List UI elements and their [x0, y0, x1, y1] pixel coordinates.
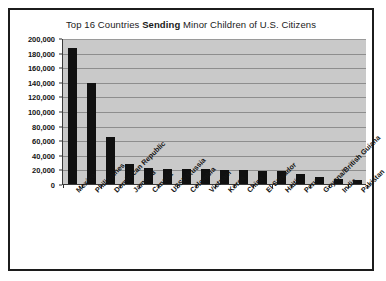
chart-title-emphasis: Sending	[142, 19, 180, 30]
chart-title-after: Minor Children of U.S. Citizens	[180, 19, 316, 30]
x-axis: MexicoPhilippinesDominican RepublicJamai…	[62, 188, 372, 270]
y-tick-label: 120,000	[28, 93, 55, 102]
y-tick-label: 140,000	[28, 78, 55, 87]
y-tick-label: 200,000	[28, 35, 55, 44]
bars-layer	[63, 39, 366, 184]
chart-title-before: Top 16 Countries	[66, 19, 142, 30]
y-tick-label: 100,000	[28, 108, 55, 117]
y-tick-label: 40,000	[32, 151, 55, 160]
y-tick-label: 60,000	[32, 137, 55, 146]
chart-title: Top 16 Countries Sending Minor Children …	[10, 19, 372, 30]
bar[interactable]	[68, 48, 77, 184]
y-axis: 020,00040,00060,00080,000100,000120,0001…	[10, 39, 58, 185]
y-tick-label: 80,000	[32, 122, 55, 131]
y-tick-label: 180,000	[28, 49, 55, 58]
y-tick-label: 20,000	[32, 166, 55, 175]
y-tick-label: 0	[51, 181, 55, 190]
y-tick-label: 160,000	[28, 64, 55, 73]
bar[interactable]	[87, 83, 96, 184]
plot-area	[62, 39, 366, 185]
chart-frame: Top 16 Countries Sending Minor Children …	[8, 8, 374, 271]
